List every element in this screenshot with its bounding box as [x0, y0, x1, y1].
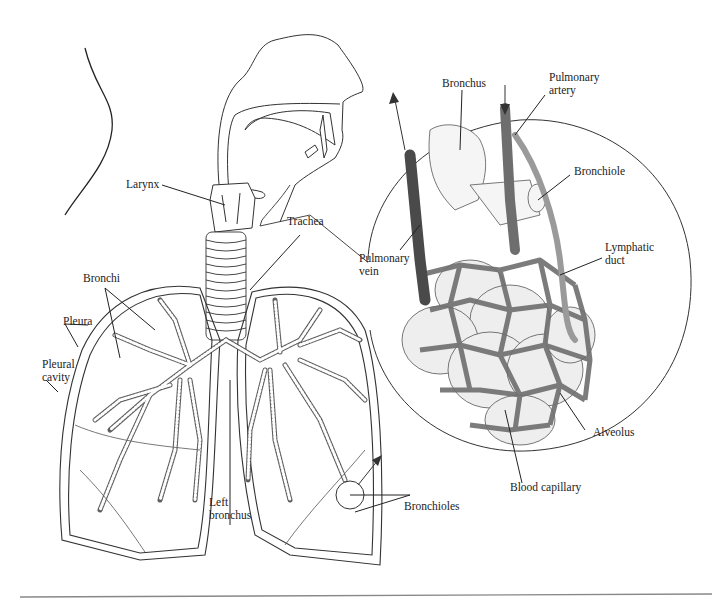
left-lung-pleura-inner [246, 294, 374, 555]
label-left-bronchus: Left bronchus [209, 496, 251, 522]
label-blood-capillary: Blood capillary [510, 481, 581, 494]
label-bronchus: Bronchus [442, 77, 486, 90]
label-larynx: Larynx [126, 178, 159, 191]
bottom-rule [20, 594, 712, 597]
label-bronchi: Bronchi [83, 272, 120, 285]
larynx-structure [210, 183, 255, 232]
outflow-arrow-icon [389, 92, 399, 104]
alveolus-detail-circle [368, 85, 691, 451]
label-pulmonary-artery: Pulmonary artery [549, 71, 599, 97]
body-outline [65, 48, 112, 215]
label-bronchiole: Bronchiole [574, 165, 625, 178]
right-lung-pleura-inner [69, 294, 212, 553]
label-trachea: Trachea [287, 215, 324, 228]
label-alveolus: Alveolus [593, 426, 635, 439]
label-pleura: Pleura [63, 315, 92, 328]
label-bronchioles: Bronchioles [404, 500, 460, 513]
respiratory-system-diagram: Larynx Trachea Bronchi Pleura Pleural ca… [0, 0, 718, 605]
label-lymphatic-duct: Lymphatic duct [605, 241, 654, 267]
label-pulmonary-vein: Pulmonary vein [359, 252, 409, 278]
diagram-artwork [0, 0, 718, 605]
lobe-fissures [75, 425, 365, 552]
label-pleural-cavity: Pleural cavity [42, 358, 75, 384]
trachea-structure [206, 232, 246, 340]
